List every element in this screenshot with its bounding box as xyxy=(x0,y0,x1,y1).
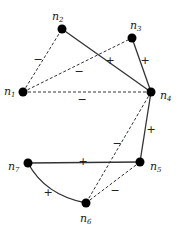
node-label-n1: n1 xyxy=(4,85,16,99)
node-label-n3: n3 xyxy=(130,19,142,33)
edge-n7-n6 xyxy=(28,163,86,203)
node-label-n4: n4 xyxy=(160,89,172,103)
edge-sign-positive: + xyxy=(140,54,149,67)
signed-graph-diagram: −−−+++−−++ n1n2n3n4n5n6n7 xyxy=(0,0,181,230)
edge-sign-positive: + xyxy=(105,54,114,67)
node-n2 xyxy=(58,25,67,34)
edge-sign-negative: − xyxy=(110,184,119,197)
edge-sign-positive: + xyxy=(146,123,155,136)
node-n5 xyxy=(136,158,145,167)
node-n3 xyxy=(128,34,137,43)
node-label-n2: n2 xyxy=(52,10,64,24)
edge-signs-group: −−−+++−−++ xyxy=(33,53,155,199)
node-label-n7: n7 xyxy=(8,160,20,174)
edge-sign-positive: + xyxy=(43,186,52,199)
node-label-n6: n6 xyxy=(80,212,92,226)
node-n7 xyxy=(24,159,33,168)
node-label-n5: n5 xyxy=(150,160,162,174)
edge-sign-negative: − xyxy=(112,137,121,150)
edge-sign-positive: + xyxy=(78,155,87,168)
edge-sign-negative: − xyxy=(33,53,42,66)
node-n6 xyxy=(82,199,91,208)
node-n1 xyxy=(19,88,28,97)
node-n4 xyxy=(147,88,156,97)
nodes-group xyxy=(19,25,156,208)
edge-sign-negative: − xyxy=(77,93,86,106)
edge-sign-negative: − xyxy=(74,65,83,78)
